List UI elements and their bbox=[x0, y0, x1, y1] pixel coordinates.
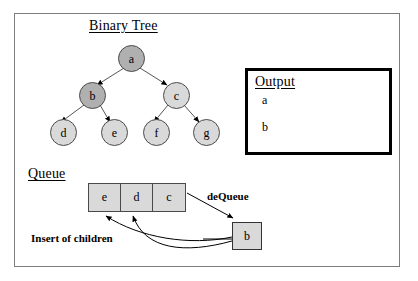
output-item: a bbox=[262, 93, 267, 108]
tree-node-c-label: c bbox=[174, 90, 179, 102]
tree-node-e[interactable]: e bbox=[101, 119, 128, 146]
queue-cell[interactable]: d bbox=[121, 184, 153, 211]
dequeued-node-label: b bbox=[244, 229, 250, 244]
queue-title: Queue bbox=[28, 166, 66, 182]
tree-node-c[interactable]: c bbox=[163, 82, 190, 109]
binary-tree-title: Binary Tree bbox=[89, 18, 158, 34]
tree-node-a-label: a bbox=[129, 53, 134, 65]
queue-cell[interactable]: c bbox=[153, 184, 185, 211]
diagram-canvas: Binary Tree Queue a b c d e f g Output a… bbox=[0, 0, 418, 281]
tree-node-e-label: e bbox=[112, 127, 117, 139]
output-item: b bbox=[262, 120, 268, 135]
queue-cell-label: e bbox=[102, 190, 107, 205]
output-title: Output bbox=[255, 74, 295, 90]
tree-node-d[interactable]: d bbox=[50, 119, 77, 146]
queue-row: e d c bbox=[88, 183, 186, 212]
tree-node-f[interactable]: f bbox=[143, 119, 170, 146]
queue-cell[interactable]: e bbox=[89, 184, 121, 211]
queue-cell-label: d bbox=[134, 190, 140, 205]
tree-node-g[interactable]: g bbox=[193, 119, 220, 146]
dequeued-node-box[interactable]: b bbox=[232, 222, 262, 250]
tree-node-d-label: d bbox=[61, 127, 67, 139]
tree-node-f-label: f bbox=[155, 127, 159, 139]
tree-node-b-label: b bbox=[90, 90, 96, 102]
tree-node-g-label: g bbox=[204, 127, 210, 139]
insert-of-children-label: Insert of children bbox=[31, 232, 113, 244]
dequeue-label: deQueue bbox=[207, 190, 249, 202]
tree-node-a[interactable]: a bbox=[118, 45, 145, 72]
queue-cell-label: c bbox=[166, 190, 171, 205]
tree-node-b[interactable]: b bbox=[79, 82, 106, 109]
